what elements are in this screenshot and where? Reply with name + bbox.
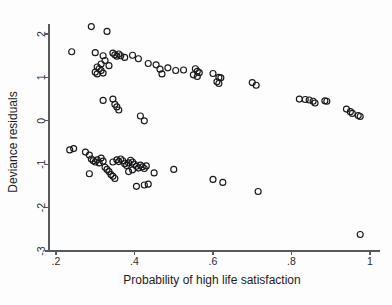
scatter-point	[210, 70, 216, 76]
scatter-point	[71, 146, 77, 152]
scatter-point	[145, 61, 151, 67]
x-tick-label: .4	[130, 255, 139, 267]
x-tick-label: .2	[52, 255, 61, 267]
x-tick-label: 1	[367, 255, 373, 267]
scatter-point	[151, 170, 157, 176]
scatter-point	[92, 50, 98, 56]
scatter-point	[69, 49, 75, 55]
y-axis: 210-1-2-3	[35, 24, 49, 256]
scatter-point	[357, 232, 363, 238]
plot-canvas: 210-1-2-3 .2.4.6.81 Probability of high …	[0, 0, 392, 305]
scatter-point	[296, 96, 302, 102]
scatter-point	[133, 183, 139, 189]
scatter-point	[141, 118, 147, 124]
scatter-point	[306, 97, 312, 103]
y-tick-label: 1	[35, 74, 47, 80]
scatter-point	[104, 28, 110, 34]
x-axis: .2.4.6.81	[49, 251, 380, 267]
scatter-point	[220, 179, 226, 185]
y-tick-label: 2	[35, 31, 47, 37]
scatter-plot-figure: 210-1-2-3 .2.4.6.81 Probability of high …	[0, 0, 392, 305]
scatter-point	[86, 171, 92, 177]
scatter-point	[67, 147, 73, 153]
scatter-point	[145, 181, 151, 187]
scatter-point	[171, 166, 177, 172]
scatter-point	[130, 52, 136, 58]
scatter-point	[210, 176, 216, 182]
scatter-point	[173, 67, 179, 73]
x-tick-label: .6	[209, 255, 218, 267]
scatter-point	[181, 67, 187, 73]
scatter-point	[100, 97, 106, 103]
scatter-point	[106, 63, 112, 69]
x-tick-label: .8	[287, 255, 296, 267]
data-points	[67, 24, 363, 238]
x-axis-title: Probability of high life satisfaction	[123, 273, 300, 287]
y-tick-label: -1	[35, 159, 47, 168]
y-tick-label: 0	[35, 118, 47, 124]
y-tick-label: -2	[35, 203, 47, 212]
scatter-point	[255, 189, 261, 195]
scatter-point	[135, 56, 141, 62]
y-tick-label: -3	[35, 246, 47, 255]
scatter-point	[165, 65, 171, 71]
scatter-point	[88, 24, 94, 30]
y-axis-title: Deviance residuals	[6, 91, 20, 192]
